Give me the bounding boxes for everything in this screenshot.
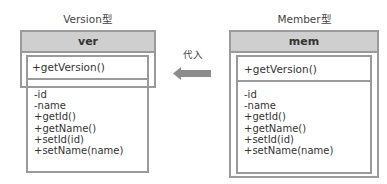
left-exposed-method: +getVersion() <box>26 55 149 80</box>
left-variable-name: ver <box>22 32 154 53</box>
right-member-list: -id -name +getId() +getName() +setId(id)… <box>244 89 333 156</box>
member-item: +setName(name) <box>34 145 123 156</box>
member-item: +setId(id) <box>244 134 333 145</box>
member-item: +setId(id) <box>34 134 123 145</box>
left-method-frame: +getVersion() <box>26 55 149 82</box>
member-item: -id <box>34 89 123 100</box>
left-member-list: -id -name +getId() +getName() +setId(id)… <box>34 89 123 156</box>
right-variable-box: mem +getVersion() -id -name +getId() +ge… <box>229 30 379 178</box>
member-item: +getId() <box>34 111 123 122</box>
member-item: -id <box>244 89 333 100</box>
assign-label: 代入 <box>183 47 203 61</box>
right-exposed-method: +getVersion() <box>238 57 370 82</box>
arrow-left-icon <box>173 67 211 80</box>
right-member-object-box: +getVersion() -id -name +getId() +getNam… <box>236 55 372 174</box>
member-item: +setName(name) <box>244 145 333 156</box>
member-item: +getId() <box>244 111 333 122</box>
right-type-label: Member型 <box>229 11 379 26</box>
right-variable-name: mem <box>231 32 377 53</box>
member-item: -name <box>34 100 123 111</box>
member-item: +getName() <box>34 123 123 134</box>
left-type-label: Version型 <box>20 11 155 26</box>
member-item: +getName() <box>244 123 333 134</box>
member-item: -name <box>244 100 333 111</box>
